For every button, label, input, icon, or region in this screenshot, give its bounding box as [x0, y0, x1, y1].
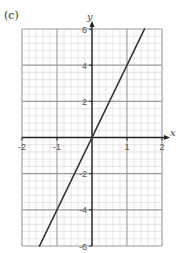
- x-tick-label: -1: [53, 142, 61, 152]
- y-tick-label: -6: [79, 242, 87, 252]
- y-tick-label: -4: [79, 205, 87, 215]
- x-axis-label: x: [170, 127, 176, 138]
- x-tick-label: 2: [159, 142, 164, 152]
- y-tick-label: 6: [82, 25, 87, 35]
- graph: (c) -2-112642-2-4-6 x y: [0, 0, 179, 253]
- x-tick-label: 1: [124, 142, 129, 152]
- y-tick-label: 4: [82, 61, 87, 71]
- panel-label: (c): [4, 9, 19, 22]
- y-axis-label: y: [86, 11, 93, 22]
- y-tick-label: 2: [82, 97, 87, 107]
- x-tick-label: -2: [18, 142, 26, 152]
- y-tick-label: -2: [79, 169, 87, 179]
